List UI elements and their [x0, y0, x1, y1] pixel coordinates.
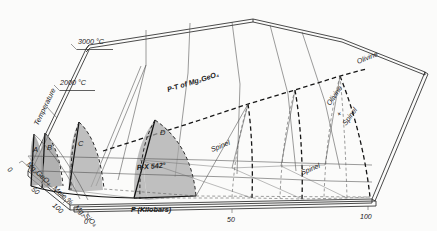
- svg-text:Spinel: Spinel: [340, 105, 359, 127]
- composition-tick-0: 0: [6, 166, 14, 174]
- phase-label-olivine: Olivine: [355, 49, 379, 66]
- composition-tick-50: 50: [30, 186, 41, 196]
- region-label-C: C: [78, 139, 84, 148]
- pressure-axis-label: P (Kilobars): [131, 205, 172, 214]
- isotherm-2000-label: 2000 °C: [59, 78, 87, 87]
- pressure-tick-100: 100: [360, 213, 372, 220]
- region-label-A: A: [32, 145, 38, 154]
- phase-diagram-figure: 3000 °C 2000 °C Temperature P-T of Mg₂Ge…: [0, 0, 437, 231]
- pressure-tick-50: 50: [227, 216, 235, 223]
- pressure-tick-0: 0: [84, 218, 88, 225]
- phase-label-olivine-plus-spinel: Olivine + Spinel: [324, 84, 359, 127]
- svg-text:Olivine: Olivine: [324, 84, 344, 107]
- temperature-axis-label: Temperature: [32, 87, 58, 127]
- phase-label-spinel-1: Spinel: [209, 138, 231, 154]
- isotherm-3000-label: 3000 °C: [78, 37, 105, 46]
- phase-boundary-loops: [232, 76, 370, 199]
- region-label-D: D: [160, 128, 166, 137]
- composition-tick-100: 100: [51, 202, 64, 215]
- diagram-canvas: 3000 °C 2000 °C Temperature P-T of Mg₂Ge…: [0, 0, 437, 231]
- pt-section-label: P-T of Mg₂GeO₄: [166, 70, 220, 94]
